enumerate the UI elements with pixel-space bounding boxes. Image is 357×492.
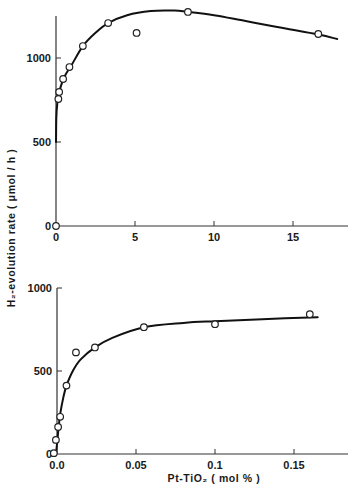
data-point-marker bbox=[60, 76, 67, 83]
figure: H₂-evolution rate ( μmol / h ) 05001000 … bbox=[0, 0, 357, 492]
data-point-marker bbox=[55, 96, 62, 103]
data-point-marker bbox=[51, 450, 58, 457]
bottom-x-ticks: 0.00.050.10.15 bbox=[49, 449, 304, 471]
y-tick-label: 1000 bbox=[27, 52, 51, 64]
data-point-marker bbox=[141, 324, 148, 331]
x-tick-label: 15 bbox=[287, 231, 299, 243]
data-point-marker bbox=[66, 64, 73, 71]
data-point-marker bbox=[53, 437, 60, 444]
x-tick-label: 0.1 bbox=[207, 459, 222, 471]
data-point-marker bbox=[105, 20, 112, 27]
y-tick-label: 500 bbox=[33, 136, 51, 148]
top-x-ticks: 051015 bbox=[53, 221, 299, 243]
y-axis-title: H₂-evolution rate ( μmol / h ) bbox=[5, 149, 17, 308]
bottom-panel: 05001000 0.00.050.10.15 bbox=[28, 282, 348, 471]
data-point-marker bbox=[56, 89, 63, 96]
top-data-markers bbox=[53, 9, 322, 230]
y-tick-label: 0 bbox=[45, 220, 51, 232]
data-point-marker bbox=[212, 321, 219, 328]
top-fitted-curve bbox=[56, 10, 337, 142]
data-point-marker bbox=[57, 414, 64, 421]
y-tick-label: 500 bbox=[34, 365, 52, 377]
data-point-marker bbox=[53, 223, 60, 230]
data-point-marker bbox=[92, 344, 99, 351]
data-point-marker bbox=[315, 31, 322, 38]
x-axis-title: Pt-TiO₂ ( mol % ) bbox=[168, 472, 261, 484]
top-panel: 05001000 051015 bbox=[27, 9, 348, 243]
x-tick-label: 10 bbox=[208, 231, 220, 243]
data-point-marker bbox=[133, 30, 140, 37]
x-tick-label: 5 bbox=[132, 231, 138, 243]
x-tick-label: 0.05 bbox=[125, 459, 146, 471]
data-point-marker bbox=[185, 9, 192, 16]
y-tick-label: 1000 bbox=[28, 282, 52, 294]
data-point-marker bbox=[80, 43, 87, 50]
data-point-marker bbox=[307, 311, 314, 318]
x-tick-label: 0 bbox=[53, 231, 59, 243]
bottom-fitted-curve bbox=[56, 317, 318, 454]
x-tick-label: 0.0 bbox=[49, 459, 64, 471]
data-point-marker bbox=[63, 382, 70, 389]
data-point-marker bbox=[55, 424, 62, 431]
data-point-marker bbox=[73, 349, 80, 356]
bottom-data-markers bbox=[51, 311, 314, 457]
x-tick-label: 0.15 bbox=[283, 459, 304, 471]
